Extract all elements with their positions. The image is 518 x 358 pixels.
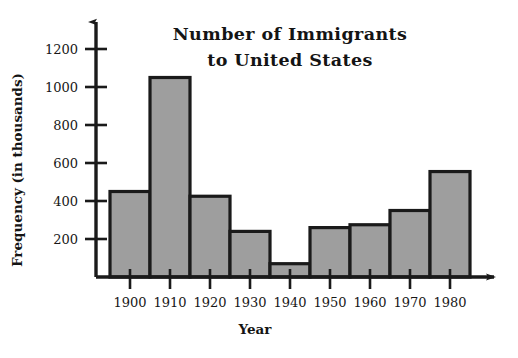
bar-1920 — [190, 196, 230, 277]
x-axis-label: Year — [238, 321, 273, 337]
y-tick-label-1200: 1200 — [45, 42, 78, 57]
y-tick-label-800: 800 — [53, 118, 78, 133]
y-tick-label-400: 400 — [53, 194, 78, 209]
y-tick-label-600: 600 — [53, 156, 78, 171]
bar-1980 — [430, 172, 470, 277]
x-tick-label-1940: 1940 — [273, 295, 306, 310]
y-tick-label-1000: 1000 — [45, 80, 78, 95]
bar-1900 — [110, 192, 150, 278]
chart-title-line-1: Number of Immigrants — [173, 24, 408, 44]
histogram-chart: Number of Immigrants to United States Fr… — [0, 0, 518, 358]
x-tick-label-1980: 1980 — [433, 295, 466, 310]
x-tick-label-1970: 1970 — [393, 295, 426, 310]
x-tick-label-1950: 1950 — [313, 295, 346, 310]
y-tick-label-200: 200 — [53, 232, 78, 247]
y-axis-label: Frequency (in thousands) — [9, 73, 25, 267]
chart-canvas: Number of Immigrants to United States Fr… — [0, 0, 518, 358]
x-tick-label-1930: 1930 — [233, 295, 266, 310]
x-tick-label-1900: 1900 — [113, 295, 146, 310]
x-tick-label-1910: 1910 — [153, 295, 186, 310]
x-tick-label-1920: 1920 — [193, 295, 226, 310]
bar-1910 — [150, 78, 190, 278]
chart-title-line-2: to United States — [207, 50, 373, 70]
bar-1970 — [390, 211, 430, 278]
x-tick-label-1960: 1960 — [353, 295, 386, 310]
